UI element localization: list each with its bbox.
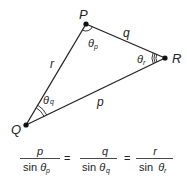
law-of-sines-formula: p sin θp = q sin θq = r sin θr: [20, 145, 173, 175]
numerator-p: p: [36, 145, 43, 157]
side-p: [26, 58, 165, 125]
fraction-q: q sin θq: [80, 145, 117, 175]
angle-arc-r-3: [152, 53, 153, 64]
vertex-r-label: R: [172, 51, 181, 66]
angle-theta-q-label: θq: [43, 94, 54, 106]
angle-theta-r-label: θr: [137, 53, 146, 66]
numerator-r: r: [153, 145, 158, 157]
fraction-p: p sin θp: [20, 145, 60, 175]
vertex-q-dot: [23, 122, 28, 127]
numerator-q: q: [102, 145, 109, 157]
denominator-r: sin θr: [139, 161, 167, 174]
denominator-p: sin θp: [23, 161, 50, 175]
angle-arc-r-2: [154, 54, 155, 63]
vertex-p-label: P: [79, 7, 88, 22]
equals-sign-1: =: [64, 152, 70, 164]
side-p-label: p: [96, 95, 104, 109]
angle-arc-r-1: [156, 55, 157, 62]
side-r-label: r: [50, 57, 55, 71]
vertex-r-dot: [162, 55, 167, 60]
equals-sign-2: =: [124, 152, 130, 164]
fraction-r: r sin θr: [136, 145, 173, 174]
side-q-label: q: [123, 26, 130, 40]
vertex-q-label: Q: [11, 122, 21, 137]
triangle: [26, 24, 165, 125]
law-of-sines-diagram: P R Q r q p θp θr θq p sin θp = q sin θq: [0, 0, 187, 183]
angle-theta-p-label: θp: [88, 37, 98, 51]
denominator-q: sin θq: [82, 161, 110, 175]
vertex-p-dot: [83, 21, 88, 26]
